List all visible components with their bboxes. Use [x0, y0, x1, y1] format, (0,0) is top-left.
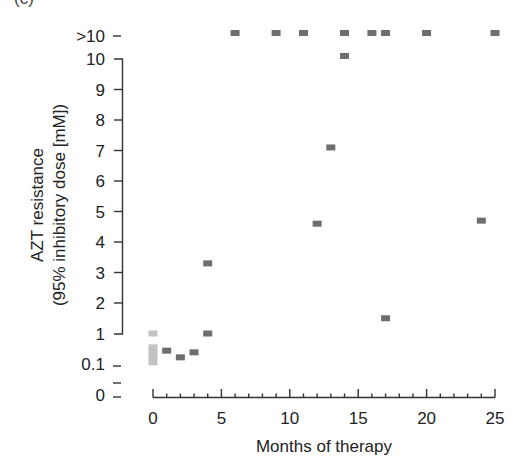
data-point [326, 144, 335, 150]
scatter-chart: 00.112345678910>10 0510152025 Months of … [0, 0, 523, 464]
y-axis-line [114, 59, 123, 334]
data-point [149, 331, 158, 337]
data-point [203, 331, 212, 337]
data-point [381, 315, 390, 321]
y-tick-label: 8 [96, 111, 105, 130]
data-point [381, 30, 390, 36]
y-tick-label: 5 [96, 203, 105, 222]
y-tick-label: >10 [76, 27, 105, 46]
y-tick-label: 1 [96, 325, 105, 344]
y-axis: 00.112345678910>10 [76, 27, 122, 405]
y-tick-label: 2 [96, 294, 105, 313]
y-tick-label: 4 [96, 233, 105, 252]
y-tick-label: 6 [96, 172, 105, 191]
data-point [422, 30, 431, 36]
data-point [313, 221, 322, 227]
data-point [477, 218, 486, 224]
data-point [340, 53, 349, 59]
y-tick-label: 10 [86, 50, 105, 69]
y-axis-title-line1: AZT resistance [28, 148, 47, 262]
x-tick-label: 5 [217, 409, 226, 428]
data-point [367, 30, 376, 36]
y-tick-label: 3 [96, 264, 105, 283]
data-point [231, 30, 240, 36]
data-point [340, 30, 349, 36]
data-point [149, 359, 158, 365]
y-tick-label: 9 [96, 81, 105, 100]
data-point [299, 30, 308, 36]
data-point [176, 354, 185, 360]
data-point [491, 30, 500, 36]
x-tick-label: 10 [280, 409, 299, 428]
y-tick-label: 0 [96, 386, 105, 405]
data-point [162, 348, 171, 354]
x-tick-label: 15 [349, 409, 368, 428]
x-axis-title: Months of therapy [256, 437, 393, 456]
x-axis: 0510152025 [148, 389, 504, 428]
y-axis-title-line2: (95% inhibitory dose [mM]) [50, 104, 69, 306]
data-point [272, 30, 281, 36]
y-tick-label: 0.1 [81, 355, 105, 374]
y-tick-label: 7 [96, 142, 105, 161]
data-point [190, 349, 199, 355]
x-tick-label: 25 [486, 409, 505, 428]
data-points [149, 30, 500, 365]
x-tick-label: 0 [148, 409, 157, 428]
x-tick-label: 20 [417, 409, 436, 428]
data-point [203, 260, 212, 266]
